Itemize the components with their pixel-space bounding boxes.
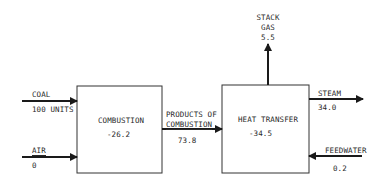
combustion-value: -26.2 xyxy=(107,131,130,139)
products-label-line2: COMBUSTION xyxy=(166,121,212,130)
coal-value: 100 UNITS xyxy=(32,106,74,114)
products-value: 73.8 xyxy=(178,137,196,145)
products-label-line1: PRODUCTS OF xyxy=(166,111,217,119)
air-value: 0 xyxy=(32,162,37,170)
feedwater-value: 0.2 xyxy=(333,165,347,173)
stack-gas-value: 5.5 xyxy=(252,34,284,42)
heat-transfer-value: -34.5 xyxy=(249,130,272,138)
combustion-label: COMBUSTION xyxy=(98,117,144,125)
stack-gas-label-line2: GAS xyxy=(252,24,284,32)
stack-gas-label-line1: STACK xyxy=(252,14,284,22)
feedwater-label: FEEDWATER xyxy=(325,147,367,155)
coal-label: COAL xyxy=(32,91,50,99)
air-label: AIR xyxy=(32,147,46,156)
steam-label: STEAM xyxy=(318,90,341,98)
heat-transfer-label: HEAT TRANSFER xyxy=(238,116,298,124)
steam-value: 34.0 xyxy=(318,104,336,112)
